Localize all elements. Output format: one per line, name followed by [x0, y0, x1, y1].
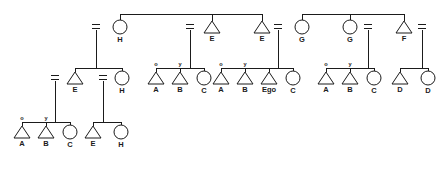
node-g2-C3-label: C [371, 86, 377, 95]
node-g1-E2-triangle-icon [254, 21, 270, 33]
kinship-diagram: HEEGGFEHAoByCAoByEgoCAoByCDDAoByCEH [0, 0, 447, 177]
node-g2-A3-triangle-icon [318, 72, 334, 84]
node-g3-E-triangle-icon [85, 126, 101, 138]
node-g3-B-rank-label: y [44, 115, 48, 121]
node-g2-B2-triangle-icon [237, 72, 253, 84]
node-g2-Ego-triangle-icon [261, 72, 277, 84]
node-g3-A-label: A [19, 139, 25, 148]
node-g2-E-triangle-icon [67, 72, 83, 84]
node-g2-A2-rank-label: o [219, 61, 223, 67]
node-g3-B-label: B [43, 139, 49, 148]
node-g2-A2-triangle-icon [213, 72, 229, 84]
node-g1-E1-triangle-icon [204, 21, 220, 33]
node-g2-B3-triangle-icon [342, 72, 358, 84]
node-g2-H-label: H [119, 86, 124, 95]
node-g2-A1-rank-label: o [154, 61, 158, 67]
node-g1-G1-circle-icon [295, 20, 309, 34]
node-g1-E2-label: E [259, 34, 264, 43]
node-g2-C1-circle-icon [197, 71, 211, 85]
node-g2-Ego-label: Ego [262, 85, 277, 94]
node-g3-C-circle-icon [63, 125, 77, 139]
node-g2-B1-rank-label: y [178, 61, 182, 67]
node-g3-H-circle-icon [114, 125, 128, 139]
node-g1-F-label: F [402, 34, 407, 43]
node-g2-B1-label: B [177, 85, 183, 94]
node-g2-C2-circle-icon [286, 71, 300, 85]
node-g3-C-label: C [67, 140, 73, 149]
node-g2-H-circle-icon [115, 71, 129, 85]
node-g2-A1-triangle-icon [148, 72, 164, 84]
node-g2-D2-circle-icon [421, 71, 435, 85]
node-g1-F-triangle-icon [396, 21, 412, 33]
node-g2-A3-label: A [323, 85, 329, 94]
node-g2-B3-rank-label: y [348, 61, 352, 67]
node-g1-G2-label: G [347, 35, 353, 44]
node-g2-C2-label: C [290, 86, 296, 95]
node-g3-H-label: H [118, 140, 123, 149]
node-g2-B2-label: B [242, 85, 248, 94]
node-g2-D1-label: D [397, 85, 403, 94]
node-g1-H-label: H [117, 35, 122, 44]
node-g2-D2-label: D [425, 86, 431, 95]
node-g2-A1-label: A [153, 85, 159, 94]
kinship-svg-canvas: HEEGGFEHAoByCAoByEgoCAoByCDDAoByCEH [0, 0, 447, 177]
node-g2-B1-triangle-icon [172, 72, 188, 84]
node-g1-G1-label: G [299, 35, 305, 44]
node-g2-B2-rank-label: y [243, 61, 247, 67]
node-g2-C3-circle-icon [367, 71, 381, 85]
node-g2-E-label: E [72, 85, 77, 94]
node-g1-G2-circle-icon [343, 20, 357, 34]
node-g2-A2-label: A [218, 85, 224, 94]
node-g2-A3-rank-label: o [324, 61, 328, 67]
node-g1-E1-label: E [209, 34, 214, 43]
node-g3-E-label: E [90, 139, 95, 148]
node-g3-A-rank-label: o [20, 115, 24, 121]
node-g2-B3-label: B [347, 85, 353, 94]
node-g3-A-triangle-icon [14, 126, 30, 138]
node-g3-B-triangle-icon [38, 126, 54, 138]
node-g2-C1-label: C [201, 86, 207, 95]
node-g1-H-circle-icon [113, 20, 127, 34]
node-g2-D1-triangle-icon [392, 72, 408, 84]
